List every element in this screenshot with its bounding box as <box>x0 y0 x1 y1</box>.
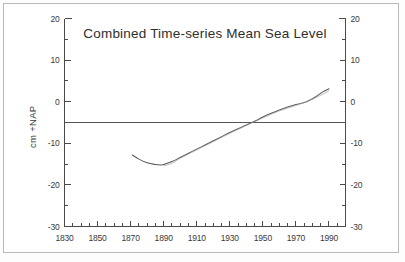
y-axis-title: cm +NAP <box>27 106 38 148</box>
y-axis-tick-label-left: -20 <box>48 180 60 190</box>
y-axis-tick-label-right: 10 <box>351 55 361 65</box>
x-axis-tick-label: 1870 <box>122 233 141 243</box>
x-axis-tick-label: 1990 <box>320 233 339 243</box>
y-axis-tick-label-left: 10 <box>50 55 60 65</box>
y-axis-tick-label-right: -10 <box>351 138 363 148</box>
y-axis-tick-label-right: -30 <box>351 222 363 232</box>
figure-canvas: 20100-10-20-3020100-10-20-30183018501870… <box>0 0 405 262</box>
x-axis-tick-label: 1830 <box>55 233 74 243</box>
sea-level-trend-overlay <box>164 91 329 166</box>
x-axis-tick-label: 1970 <box>287 233 306 243</box>
y-axis-tick-label-right: 0 <box>351 97 356 107</box>
y-axis-tick-label-left: 0 <box>55 97 60 107</box>
x-axis-tick-label: 1930 <box>221 233 240 243</box>
y-axis-tick-label-left: -30 <box>48 222 60 232</box>
x-axis-tick-label: 1850 <box>89 233 108 243</box>
x-axis-tick-label: 1890 <box>155 233 174 243</box>
y-axis-tick-label-left: 20 <box>50 14 60 24</box>
x-axis-tick-label: 1910 <box>188 233 207 243</box>
y-axis-tick-label-right: -20 <box>351 180 363 190</box>
y-axis-tick-label-right: 20 <box>351 14 361 24</box>
x-axis-tick-label: 1950 <box>254 233 273 243</box>
data-curves <box>132 89 329 166</box>
y-axis-tick-label-left: -10 <box>48 138 60 148</box>
sea-level-curve <box>132 89 329 165</box>
axis-tick-labels: 20100-10-20-3020100-10-20-30183018501870… <box>48 14 363 243</box>
chart-title: Combined Time-series Mean Sea Level <box>83 26 326 41</box>
sea-level-line-chart: 20100-10-20-3020100-10-20-30183018501870… <box>0 0 405 262</box>
